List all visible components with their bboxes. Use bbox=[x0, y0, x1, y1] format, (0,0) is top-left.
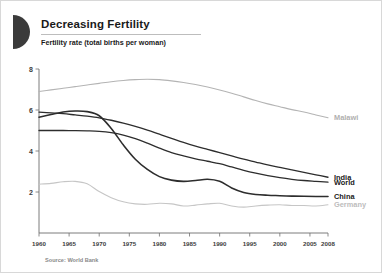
x-axis-tick-label: 1975 bbox=[122, 240, 136, 247]
series-line-china bbox=[39, 111, 328, 197]
y-axis-tick-label: 6 bbox=[29, 107, 33, 114]
x-axis-tick-label: 2005 bbox=[303, 240, 317, 247]
source-note: Source: World Bank bbox=[45, 257, 98, 263]
x-axis-tick-label: 1990 bbox=[213, 240, 227, 247]
title-divider bbox=[41, 34, 201, 35]
chart-header: Decreasing Fertility Fertility rate (tot… bbox=[1, 1, 382, 57]
x-axis-tick-label: 1985 bbox=[183, 240, 197, 247]
fertility-line-chart: 2468196019651970197519801985199019952000… bbox=[1, 53, 382, 253]
x-axis-tick-label: 2008 bbox=[321, 240, 335, 247]
y-axis-tick-label: 4 bbox=[29, 148, 33, 155]
y-axis-tick-label: 8 bbox=[29, 66, 33, 73]
series-label-malawi: Malawi bbox=[334, 113, 358, 122]
series-label-germany: Germany bbox=[334, 200, 367, 209]
series-line-germany bbox=[39, 181, 328, 207]
series-label-world: World bbox=[334, 178, 355, 187]
x-axis-tick-label: 1960 bbox=[32, 240, 46, 247]
y-axis-tick-label: 2 bbox=[29, 189, 33, 196]
x-axis-tick-label: 1980 bbox=[153, 240, 167, 247]
series-line-india bbox=[39, 112, 328, 177]
half-circle-logo-icon bbox=[13, 15, 30, 49]
x-axis-tick-label: 1995 bbox=[243, 240, 257, 247]
chart-subtitle: Fertility rate (total births per woman) bbox=[41, 38, 166, 47]
infographic-card: Decreasing Fertility Fertility rate (tot… bbox=[0, 0, 382, 273]
page-title: Decreasing Fertility bbox=[41, 18, 150, 30]
x-axis-tick-label: 1965 bbox=[62, 240, 76, 247]
x-axis-tick-label: 2000 bbox=[273, 240, 287, 247]
series-line-world bbox=[39, 130, 328, 182]
chart-plot-area: 2468196019651970197519801985199019952000… bbox=[1, 53, 382, 253]
series-line-malawi bbox=[39, 79, 328, 118]
x-axis-tick-label: 1970 bbox=[92, 240, 106, 247]
